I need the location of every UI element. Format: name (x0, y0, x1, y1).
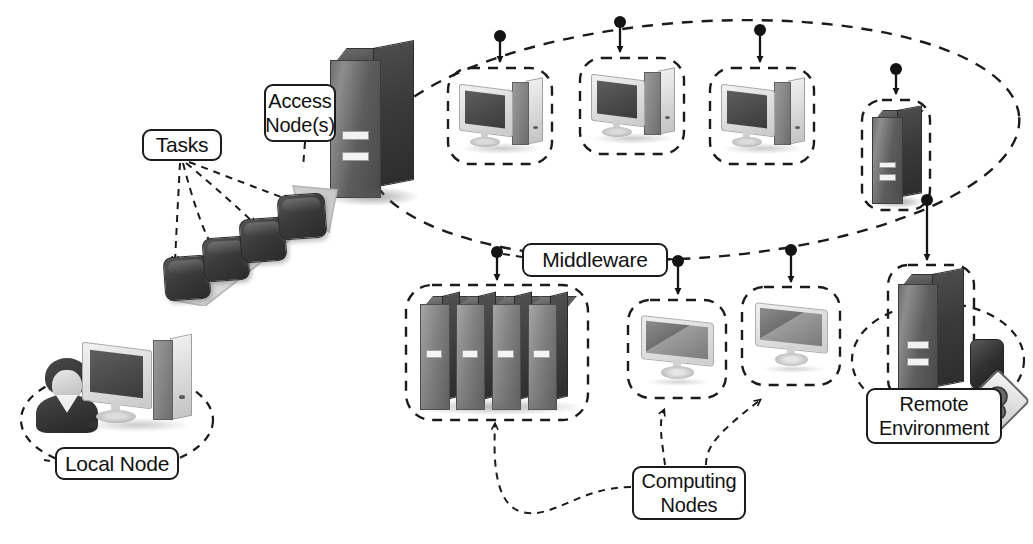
server-rack-cluster-icon (420, 296, 576, 408)
local-node-label[interactable]: Local Node (55, 447, 179, 480)
middleware-leader-left (503, 254, 522, 257)
local-node-label-text: Local Node (65, 452, 169, 476)
remote-server-tower-icon (898, 274, 964, 394)
desktop-pc-icon (721, 76, 805, 156)
tasks-label[interactable]: Tasks (142, 129, 222, 161)
remote-environment-label-line1: Remote (900, 392, 969, 416)
middleware-label[interactable]: Middleware (522, 243, 668, 277)
access-node-label-line1: Access (268, 89, 331, 113)
local-desktop-pc-icon (82, 332, 192, 434)
server-tower-icon (872, 110, 922, 202)
monitor-icon (755, 303, 831, 373)
remote-environment-label-line2: Environment (879, 416, 989, 440)
desktop-pc-icon (591, 66, 675, 146)
middleware-connector-3 (754, 24, 766, 62)
access-node-label-line2: Node(s) (265, 113, 335, 137)
middleware-connector-2 (614, 16, 626, 52)
access-node-leader (303, 142, 305, 168)
access-node-server-tower-icon (330, 48, 414, 196)
middleware-label-text: Middleware (542, 248, 647, 272)
computing-nodes-label-line1: Computing (642, 469, 737, 493)
middleware-connector-5 (491, 246, 503, 280)
tasks-label-text: Tasks (156, 133, 209, 157)
desktop-pc-icon (459, 76, 543, 156)
middleware-connector-4 (890, 63, 902, 94)
access-node-label[interactable]: Access Node(s) (264, 84, 336, 142)
middleware-connector-6 (672, 255, 684, 294)
middleware-connector-7 (785, 244, 797, 282)
monitor-icon (641, 316, 717, 386)
remote-environment-label[interactable]: Remote Environment (866, 388, 1002, 444)
task-cube (276, 192, 327, 240)
diagram-canvas: Tasks Access Node(s) Middleware Computin… (0, 0, 1033, 544)
computing-nodes-label[interactable]: Computing Nodes (632, 466, 746, 520)
computing-nodes-label-line2: Nodes (661, 493, 718, 517)
